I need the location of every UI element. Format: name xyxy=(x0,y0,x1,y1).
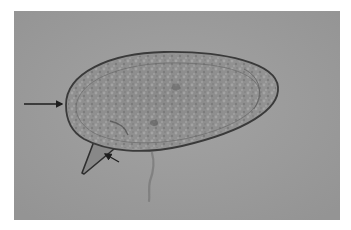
micrograph-frame xyxy=(14,11,340,220)
micrograph xyxy=(14,11,340,220)
